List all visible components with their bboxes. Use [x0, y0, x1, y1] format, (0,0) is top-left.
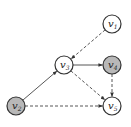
edge-v3-v5 [71, 71, 105, 100]
edge-v2-v3 [23, 71, 57, 100]
node-v2: v2 [7, 97, 25, 115]
edge-v1-v3 [71, 30, 105, 59]
nodes: v1v2v3v4v5 [7, 15, 121, 115]
node-v5: v5 [103, 97, 121, 115]
graph-diagram: v1v2v3v4v5 [0, 0, 131, 127]
node-v3: v3 [55, 56, 73, 74]
node-v1: v1 [103, 15, 121, 33]
node-v4: v4 [103, 56, 121, 74]
